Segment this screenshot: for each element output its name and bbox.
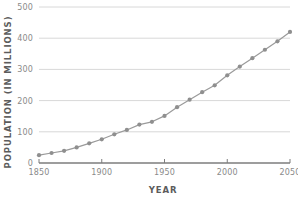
data-point-marker xyxy=(162,114,166,118)
data-point-marker xyxy=(62,149,66,153)
data-point-marker xyxy=(75,145,79,149)
data-point-marker xyxy=(275,39,279,43)
x-tick-label: 1900 xyxy=(91,168,112,177)
data-point-marker xyxy=(188,98,192,102)
data-point-marker xyxy=(288,30,292,34)
data-point-marker xyxy=(37,153,41,157)
y-axis-title: POPULATION (IN MILLIONS) xyxy=(3,16,13,169)
y-tick-label: 100 xyxy=(17,128,33,137)
population-line-chart: 0100200300400500 18501900195020002050 YE… xyxy=(0,0,298,197)
y-tick-label: 300 xyxy=(17,65,33,74)
chart-canvas: 0100200300400500 18501900195020002050 YE… xyxy=(0,0,298,197)
data-point-marker xyxy=(49,151,53,155)
series-line xyxy=(39,32,290,155)
data-point-marker xyxy=(125,128,129,132)
data-series-population xyxy=(37,30,292,157)
y-tick-label: 200 xyxy=(17,97,33,106)
data-point-marker xyxy=(100,137,104,141)
y-tick-label: 500 xyxy=(17,3,33,12)
data-point-marker xyxy=(213,83,217,87)
y-axis-tick-labels: 0100200300400500 xyxy=(17,3,33,168)
data-point-marker xyxy=(112,132,116,136)
gridlines xyxy=(39,7,290,132)
x-tick-label: 1950 xyxy=(154,168,175,177)
x-axis-title: YEAR xyxy=(148,185,178,195)
y-tick-label: 0 xyxy=(28,159,33,168)
data-point-marker xyxy=(150,120,154,124)
x-tick-label: 2050 xyxy=(279,168,298,177)
data-point-marker xyxy=(238,64,242,68)
x-tick-label: 1850 xyxy=(28,168,49,177)
data-point-marker xyxy=(87,141,91,145)
x-tick-label: 2000 xyxy=(217,168,238,177)
data-point-marker xyxy=(225,73,229,77)
x-axis-tick-labels: 18501900195020002050 xyxy=(28,168,298,177)
data-point-marker xyxy=(263,48,267,52)
data-point-marker xyxy=(250,56,254,60)
data-point-marker xyxy=(200,90,204,94)
data-point-marker xyxy=(175,105,179,109)
data-point-marker xyxy=(137,123,141,127)
y-tick-label: 400 xyxy=(17,34,33,43)
